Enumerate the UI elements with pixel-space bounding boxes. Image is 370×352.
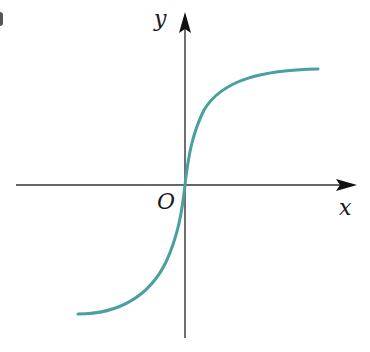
function-curve: [78, 69, 318, 314]
y-axis-label: y: [154, 8, 166, 30]
x-axis-label: x: [339, 197, 351, 219]
coordinate-diagram: [0, 0, 370, 352]
page-edge-mark: [0, 12, 3, 26]
origin-label: O: [157, 191, 175, 213]
